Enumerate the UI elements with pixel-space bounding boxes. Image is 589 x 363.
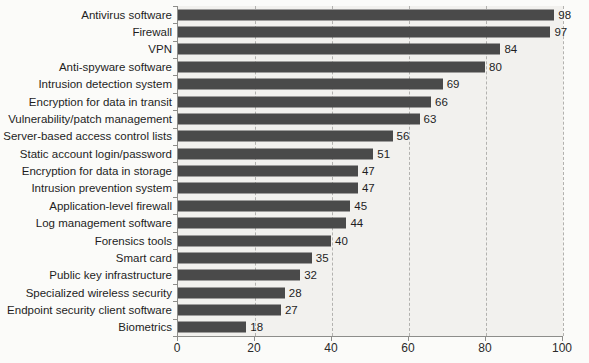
x-axis-tick — [254, 337, 255, 341]
category-label: Application-level firewall — [0, 200, 177, 212]
value-label: 69 — [447, 78, 460, 90]
y-axis-tick — [173, 180, 177, 181]
y-axis-tick — [173, 93, 177, 94]
value-label: 66 — [435, 96, 448, 108]
y-axis-tick — [173, 41, 177, 42]
bar — [178, 270, 300, 281]
x-axis-tick-label: 40 — [324, 341, 337, 355]
category-label: Public key infrastructure — [0, 269, 177, 281]
bar-row: Biometrics18 — [0, 319, 589, 336]
bar-track: 47 — [177, 162, 562, 179]
bar — [178, 131, 393, 142]
bar-row: Application-level firewall45 — [0, 197, 589, 214]
bar-track: 69 — [177, 76, 562, 93]
value-label: 45 — [354, 200, 367, 212]
bar — [178, 148, 373, 159]
x-axis-tick — [408, 337, 409, 341]
category-label: Forensics tools — [0, 235, 177, 247]
y-axis-tick — [173, 319, 177, 320]
value-label: 98 — [558, 9, 571, 21]
value-label: 47 — [362, 182, 375, 194]
category-label: Anti-spyware software — [0, 61, 177, 73]
category-label: Endpoint security client software — [0, 304, 177, 316]
category-label: Intrusion detection system — [0, 78, 177, 90]
bar-track: 45 — [177, 197, 562, 214]
category-label: Smart card — [0, 252, 177, 264]
category-label: Intrusion prevention system — [0, 182, 177, 194]
bar — [178, 61, 485, 72]
value-label: 51 — [377, 148, 390, 160]
bar — [178, 322, 246, 333]
bar — [178, 27, 550, 38]
x-axis-tick-label: 20 — [247, 341, 260, 355]
bar — [178, 252, 312, 263]
y-axis-tick — [173, 232, 177, 233]
y-axis-tick — [173, 249, 177, 250]
bar — [178, 305, 281, 316]
bar-rows: Antivirus software98Firewall97VPN84Anti-… — [0, 6, 589, 336]
category-label: Encryption for data in storage — [0, 165, 177, 177]
bar — [178, 79, 443, 90]
category-label: Specialized wireless security — [0, 287, 177, 299]
bar-track: 40 — [177, 232, 562, 249]
value-label: 27 — [285, 304, 298, 316]
value-label: 56 — [397, 130, 410, 142]
bar-track: 27 — [177, 301, 562, 318]
bar-row: Static account login/password51 — [0, 145, 589, 162]
y-axis-tick — [173, 214, 177, 215]
x-axis-tick — [485, 337, 486, 341]
y-axis-tick — [173, 6, 177, 7]
x-axis-tick-label: 100 — [552, 341, 572, 355]
bar — [178, 9, 554, 20]
bar-track: 56 — [177, 128, 562, 145]
value-label: 84 — [504, 43, 517, 55]
bar-track: 51 — [177, 145, 562, 162]
y-axis-tick — [173, 284, 177, 285]
value-label: 97 — [554, 26, 567, 38]
bar-row: Anti-spyware software80 — [0, 58, 589, 75]
bar-row: VPN84 — [0, 41, 589, 58]
bar — [178, 44, 500, 55]
y-axis-tick — [173, 145, 177, 146]
bar-row: Antivirus software98 — [0, 6, 589, 23]
bar-track: 66 — [177, 93, 562, 110]
category-label: VPN — [0, 43, 177, 55]
bar — [178, 96, 431, 107]
y-axis-tick — [173, 267, 177, 268]
value-label: 80 — [489, 61, 502, 73]
category-label: Log management software — [0, 217, 177, 229]
bar-track: 32 — [177, 267, 562, 284]
bar-row: Log management software44 — [0, 215, 589, 232]
y-axis-tick — [173, 58, 177, 59]
bar-track: 80 — [177, 58, 562, 75]
bar-track: 18 — [177, 319, 562, 336]
horizontal-bar-chart: Antivirus software98Firewall97VPN84Anti-… — [0, 0, 589, 363]
bar — [178, 218, 346, 229]
bar-row: Forensics tools40 — [0, 232, 589, 249]
value-label: 40 — [335, 235, 348, 247]
value-label: 47 — [362, 165, 375, 177]
value-label: 32 — [304, 269, 317, 281]
x-axis-tick — [562, 337, 563, 341]
bar-row: Endpoint security client software27 — [0, 301, 589, 318]
bar-row: Specialized wireless security28 — [0, 284, 589, 301]
bar-row: Vulnerability/patch management63 — [0, 110, 589, 127]
x-axis-tick — [331, 337, 332, 341]
bar-track: 47 — [177, 180, 562, 197]
value-label: 18 — [250, 321, 263, 333]
bar-row: Intrusion prevention system47 — [0, 180, 589, 197]
bar-row: Firewall97 — [0, 23, 589, 40]
value-label: 44 — [350, 217, 363, 229]
x-axis-tick-label: 60 — [401, 341, 414, 355]
value-label: 35 — [316, 252, 329, 264]
bar-track: 97 — [177, 23, 562, 40]
bar-row: Intrusion detection system69 — [0, 76, 589, 93]
bar-row: Public key infrastructure32 — [0, 267, 589, 284]
category-label: Biometrics — [0, 321, 177, 333]
bar — [178, 113, 420, 124]
y-axis-tick — [173, 162, 177, 163]
y-axis-tick — [173, 128, 177, 129]
bar-track: 63 — [177, 110, 562, 127]
category-label: Server-based access control lists — [0, 130, 177, 142]
bar-track: 98 — [177, 6, 562, 23]
